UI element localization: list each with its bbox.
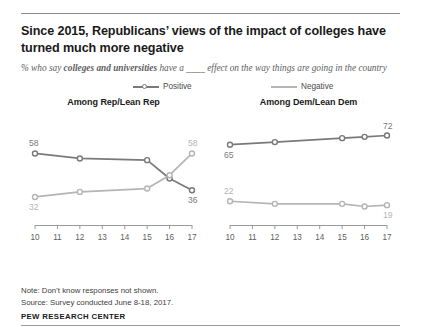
legend-marker-negative-icon [271,83,297,91]
axis-tick-label: 14 [312,233,328,242]
note-line: Note: Don’t know responses not shown. [21,285,173,296]
axis-tick-label: 10 [222,233,238,242]
axis-tick-label: 17 [184,233,200,242]
panel-dem-title: Among Dem/Lean Dem [216,97,401,107]
panel-dem-axis: 1011121314151617 [216,225,401,247]
legend-marker-positive-icon [133,83,159,91]
legend-item-positive: Positive [133,82,192,91]
data-label: 32 [29,202,39,212]
axis-tick-label: 12 [267,233,283,242]
chart-panels: Among Rep/Lean Rep 58363258 101112131415… [21,97,401,247]
brand-label: PEW RESEARCH CENTER [21,312,126,321]
axis-tick-label: 15 [139,233,155,242]
panel-dem-plot: 65722219 [216,113,401,225]
legend-item-negative: Negative [271,82,333,91]
axis-tick-label: 17 [379,233,395,242]
axis-tick-label: 16 [357,233,373,242]
panel-rep-plot: 58363258 [21,113,206,225]
data-label: 19 [383,210,393,220]
panel-rep: Among Rep/Lean Rep 58363258 101112131415… [21,97,206,247]
axis-tick-label: 13 [289,233,305,242]
axis-tick-label: 11 [49,233,65,242]
panel-rep-axis: 1011121314151617 [21,225,206,247]
data-label: 58 [29,138,39,148]
subtitle-emphasis: colleges and universities [64,63,157,73]
chart-legend: Positive Negative [21,82,401,95]
data-label: 58 [188,138,198,148]
data-label: 72 [383,121,393,131]
page-subtitle: % who say colleges and universities have… [21,62,401,75]
panel-rep-title: Among Rep/Lean Rep [21,97,206,107]
data-label: 36 [188,195,198,205]
chart-page: Since 2015, Republicans’ views of the im… [0,13,422,333]
top-divider [21,13,400,14]
axis-tick-label: 16 [162,233,178,242]
bottom-divider [21,325,400,326]
subtitle-post: have a ____ effect on the way things are… [157,63,387,73]
axis-tick-label: 11 [244,233,260,242]
axis-tick-label: 14 [117,233,133,242]
legend-label-positive: Positive [163,82,192,91]
axis-tick-label: 15 [334,233,350,242]
panel-dem: Among Dem/Lean Dem 65722219 101112131415… [216,97,401,247]
legend-label-negative: Negative [301,82,333,91]
source-line: Source: Survey conducted June 8-18, 2017… [21,297,173,308]
data-label: 22 [224,186,234,196]
footnotes: Note: Don’t know responses not shown. So… [21,285,173,308]
axis-tick-label: 10 [27,233,43,242]
page-title: Since 2015, Republicans’ views of the im… [21,23,401,56]
subtitle-pre: % who say [21,63,64,73]
axis-tick-label: 12 [72,233,88,242]
data-label: 65 [224,150,234,160]
axis-tick-label: 13 [94,233,110,242]
